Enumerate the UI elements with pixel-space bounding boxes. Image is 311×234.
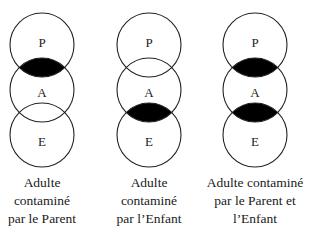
label-adult: A: [250, 85, 260, 100]
caption-line: par le Parent et: [203, 192, 307, 210]
label-parent: P: [145, 35, 152, 50]
caption-line: contaminé: [109, 192, 189, 210]
caption-line: Adulte contaminé: [203, 174, 307, 192]
caption-line: par l’Enfant: [109, 210, 189, 228]
label-child: E: [251, 134, 259, 149]
caption-double-contamination: Adulte contaminé par le Parent et l’Enfa…: [203, 174, 307, 228]
label-adult: A: [37, 85, 47, 100]
panel-double-contamination: P A E: [223, 13, 287, 167]
label-child: E: [38, 134, 46, 149]
caption-line: par le Parent: [0, 210, 84, 228]
caption-line: contaminé: [0, 192, 84, 210]
caption-line: l’Enfant: [203, 210, 307, 228]
panel-child-contamination: P A E: [117, 13, 181, 167]
caption-child-contamination: Adulte contaminé par l’Enfant: [109, 174, 189, 228]
label-child: E: [145, 134, 153, 149]
panel-parent-contamination: P A E: [10, 13, 74, 167]
ego-states-diagram: P A E P A E P A E: [0, 0, 311, 172]
label-parent: P: [38, 35, 45, 50]
label-parent: P: [251, 35, 258, 50]
caption-parent-contamination: Adulte contaminé par le Parent: [0, 174, 84, 228]
caption-line: Adulte: [0, 174, 84, 192]
label-adult: A: [144, 85, 154, 100]
caption-line: Adulte: [109, 174, 189, 192]
